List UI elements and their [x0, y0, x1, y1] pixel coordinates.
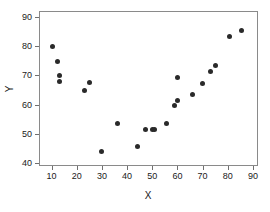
data-point — [115, 121, 120, 126]
y-tick-label: 80 — [22, 41, 32, 51]
data-point — [164, 121, 169, 126]
plot-area — [39, 11, 258, 166]
x-tick-label: 70 — [198, 171, 208, 181]
y-tick-mark — [35, 105, 39, 106]
data-point — [175, 98, 180, 103]
y-tick-label: 50 — [22, 129, 32, 139]
x-tick-mark — [102, 166, 103, 170]
x-tick-mark — [228, 166, 229, 170]
data-point — [190, 92, 195, 97]
y-tick-mark — [35, 75, 39, 76]
x-tick-label: 50 — [147, 171, 157, 181]
data-point — [57, 79, 62, 84]
x-tick-mark — [203, 166, 204, 170]
y-tick-label: 40 — [22, 158, 32, 168]
x-tick-label: 30 — [97, 171, 107, 181]
x-tick-mark — [77, 166, 78, 170]
y-tick-label: 60 — [22, 100, 32, 110]
y-tick-mark — [35, 163, 39, 164]
data-point — [135, 144, 140, 149]
data-point — [175, 75, 180, 80]
y-tick-mark — [35, 134, 39, 135]
x-tick-label: 40 — [122, 171, 132, 181]
data-point — [213, 63, 218, 68]
data-point — [227, 34, 232, 39]
x-tick-mark — [177, 166, 178, 170]
x-tick-label: 90 — [248, 171, 258, 181]
x-axis-label: X — [145, 190, 152, 201]
x-tick-mark — [52, 166, 53, 170]
y-tick-mark — [35, 17, 39, 18]
x-tick-mark — [127, 166, 128, 170]
x-tick-mark — [253, 166, 254, 170]
data-point — [57, 73, 62, 78]
y-tick-mark — [35, 46, 39, 47]
data-point — [200, 81, 205, 86]
y-axis-label: Y — [4, 86, 15, 93]
y-tick-label: 90 — [22, 12, 32, 22]
x-tick-label: 60 — [172, 171, 182, 181]
x-tick-label: 20 — [72, 171, 82, 181]
scatter-plot-figure: 102030405060708090 405060708090 X Y — [0, 0, 270, 212]
x-tick-label: 10 — [47, 171, 57, 181]
x-tick-mark — [152, 166, 153, 170]
y-tick-label: 70 — [22, 70, 32, 80]
data-point — [87, 80, 92, 85]
x-tick-label: 80 — [223, 171, 233, 181]
